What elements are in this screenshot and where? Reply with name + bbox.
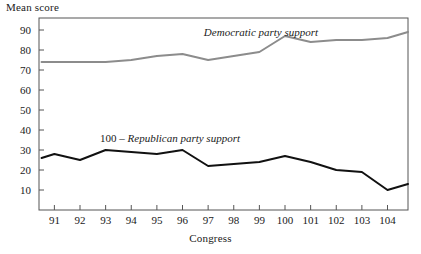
x-tick-label: 98 (228, 214, 240, 226)
y-tick-label: 40 (20, 124, 32, 136)
y-tick-label: 90 (20, 24, 32, 36)
y-tick-label: 10 (20, 184, 32, 196)
x-axis-ticks: 919293949596979899100101102103104 (49, 205, 396, 226)
annotation-democratic-support: Democratic party support (203, 26, 319, 38)
x-tick-label: 104 (379, 214, 396, 226)
y-tick-label: 80 (20, 44, 32, 56)
line-chart-plot: 102030405060708090 919293949596979899100… (0, 0, 421, 254)
y-tick-label: 20 (20, 164, 32, 176)
x-tick-label: 99 (254, 214, 266, 226)
series-annotations: Democratic party support100 – Republican… (100, 26, 319, 144)
y-tick-label: 70 (20, 64, 32, 76)
data-series-lines (42, 32, 408, 190)
y-tick-label: 60 (20, 84, 32, 96)
y-axis-ticks: 102030405060708090 (20, 24, 44, 196)
x-tick-label: 101 (302, 214, 319, 226)
x-tick-label: 95 (151, 214, 163, 226)
series-line-republican (42, 150, 408, 190)
x-tick-label: 93 (100, 214, 112, 226)
annotation-republican-support: 100 – Republican party support (100, 132, 241, 144)
x-tick-label: 96 (177, 214, 189, 226)
x-tick-label: 91 (49, 214, 60, 226)
plot-frame (39, 18, 408, 210)
x-tick-label: 100 (277, 214, 294, 226)
x-tick-label: 103 (354, 214, 371, 226)
x-tick-label: 94 (126, 214, 138, 226)
x-tick-label: 92 (75, 214, 86, 226)
chart-figure: Mean score Congress 102030405060708090 9… (0, 0, 421, 254)
x-tick-label: 102 (328, 214, 345, 226)
y-tick-label: 50 (20, 104, 32, 116)
x-tick-label: 97 (203, 214, 215, 226)
y-tick-label: 30 (20, 144, 32, 156)
